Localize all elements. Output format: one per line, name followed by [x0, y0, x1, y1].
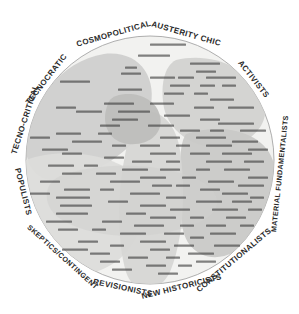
cloud-label	[56, 106, 76, 108]
cloud-label	[232, 200, 252, 202]
cloud-label	[98, 132, 112, 134]
cloud-label	[56, 132, 81, 134]
cloud-label	[224, 168, 250, 170]
cloud-label	[126, 212, 146, 214]
cloud-label	[56, 212, 88, 214]
cloud-label	[176, 144, 190, 146]
cloud-label	[196, 70, 216, 72]
cloud-label	[112, 144, 126, 146]
cloud-label	[100, 124, 120, 126]
cloud-label	[112, 118, 138, 120]
cloud-label	[206, 224, 226, 226]
cloud-label	[194, 92, 208, 94]
cloud-label	[122, 168, 148, 170]
cloud-label	[248, 208, 262, 210]
cloud-label	[194, 106, 214, 108]
cloud-label	[140, 144, 160, 146]
cloud-label	[226, 216, 246, 218]
cloud-label	[164, 232, 184, 234]
cloud-label	[214, 244, 240, 246]
cloud-label	[232, 140, 258, 142]
cloud-label	[190, 152, 210, 154]
cloud-label	[176, 184, 190, 186]
cloud-label	[140, 240, 166, 242]
cloud-label	[190, 216, 204, 218]
cloud-label	[150, 248, 170, 250]
cloud-label	[206, 76, 236, 78]
cloud-label	[248, 176, 268, 178]
cloud-label	[40, 180, 60, 182]
cloud-label	[48, 164, 74, 166]
cloud-label	[110, 244, 124, 246]
cloud-label	[96, 172, 116, 174]
cloud-label	[196, 200, 222, 202]
cloud-label	[180, 129, 200, 131]
cloud-label	[140, 176, 166, 178]
cloud-label	[196, 168, 210, 170]
cloud-label	[248, 148, 268, 150]
cloud-label	[206, 144, 232, 146]
cloud-label	[58, 228, 78, 230]
cloud-label	[60, 80, 90, 82]
cloud-label	[190, 236, 204, 238]
cloud-label	[132, 160, 152, 162]
cloud-label	[160, 136, 180, 138]
cloud-label	[148, 124, 174, 126]
cloud-label	[222, 152, 252, 154]
cloud-label	[210, 98, 234, 100]
cloud-label	[152, 184, 172, 186]
cloud-label	[150, 216, 176, 218]
cloud-label	[166, 256, 180, 258]
cloud-label	[200, 188, 220, 190]
cloud-label	[128, 256, 148, 258]
cloud-label	[150, 76, 175, 78]
cloud-label	[78, 240, 98, 242]
cloud-label	[182, 176, 196, 178]
cloud-label	[196, 260, 216, 262]
cloud-label	[166, 196, 186, 198]
cloud-label	[222, 192, 248, 194]
cloud-label	[110, 180, 140, 182]
cloud-label	[150, 43, 186, 45]
cloud-label	[196, 136, 226, 138]
cloud-label	[210, 129, 224, 131]
cloud-label	[130, 192, 160, 194]
cloud-label	[90, 252, 110, 254]
cloud-label	[56, 196, 90, 198]
cloud-label	[30, 192, 50, 194]
cloud-label	[30, 136, 50, 138]
cloud-label	[158, 272, 178, 274]
cloud-label	[178, 76, 194, 78]
cloud-label	[200, 118, 220, 120]
cloud-label	[180, 224, 194, 226]
cloud-label	[64, 188, 90, 190]
cloud-label	[118, 88, 142, 90]
cloud-label	[138, 54, 170, 56]
ideology-map-svg: TECNOCRATICCOSMOPOLITICALAUSTERITY CHICA…	[0, 0, 299, 314]
cloud-label	[125, 66, 137, 68]
cloud-label	[104, 102, 134, 104]
cloud-label	[250, 196, 264, 198]
cloud-label	[42, 148, 68, 150]
cloud-label	[46, 220, 72, 222]
cloud-label	[238, 184, 264, 186]
cloud-label	[200, 84, 215, 86]
cloud-label	[76, 110, 102, 112]
cloud-label	[170, 208, 190, 210]
cloud-label	[100, 260, 120, 262]
cloud-label	[92, 228, 106, 230]
cloud-label	[218, 122, 254, 124]
cloud-label	[228, 106, 254, 108]
cloud-label	[84, 164, 98, 166]
cloud-label	[62, 172, 82, 174]
cloud-label	[121, 72, 141, 74]
cloud-label	[208, 180, 234, 182]
cloud-label	[62, 248, 88, 250]
cloud-label	[160, 168, 180, 170]
cloud-label	[100, 188, 114, 190]
cloud-label	[102, 220, 122, 222]
cloud-label	[170, 84, 190, 86]
cloud-label	[206, 160, 232, 162]
cloud-label	[146, 264, 166, 266]
cloud-label	[244, 160, 264, 162]
